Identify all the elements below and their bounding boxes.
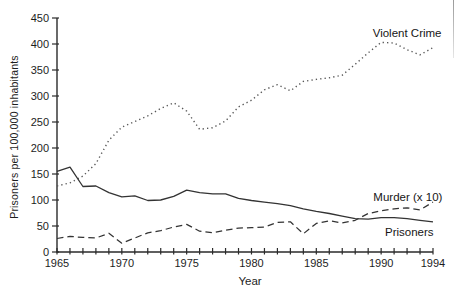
y-tick-label: 400 [31,38,49,50]
x-tick-label: 1985 [304,257,328,269]
y-axis-title: Prisoners per 100,000 inhabitants [8,55,20,219]
x-tick-label: 1970 [110,257,134,269]
y-tick-label: 100 [31,194,49,206]
x-tick-label: 1990 [369,257,393,269]
series-label-murder-x10: Murder (x 10) [373,191,442,203]
y-tick-label: 300 [31,90,49,102]
x-tick-label: 1980 [239,257,263,269]
y-tick-label: 150 [31,168,49,180]
x-tick-label: 1994 [421,257,445,269]
x-axis-title: Year [238,275,261,287]
series-line-violent-crime [57,42,433,186]
y-tick-label: 350 [31,64,49,76]
series-label-violent-crime: Violent Crime [373,27,442,39]
book-figure-page: 0501001502002503003504004501965197019751… [0,0,454,296]
x-tick-label: 1975 [174,257,198,269]
y-tick-label: 250 [31,116,49,128]
y-tick-label: 450 [31,12,49,24]
series-label-prisoners: Prisoners [385,226,434,238]
y-tick-label: 50 [37,220,49,232]
series-line-murder-x-10 [57,202,433,243]
y-tick-label: 200 [31,142,49,154]
chart-plot-area: 0501001502002503003504004501965197019751… [0,0,454,296]
x-tick-label: 1965 [45,257,69,269]
